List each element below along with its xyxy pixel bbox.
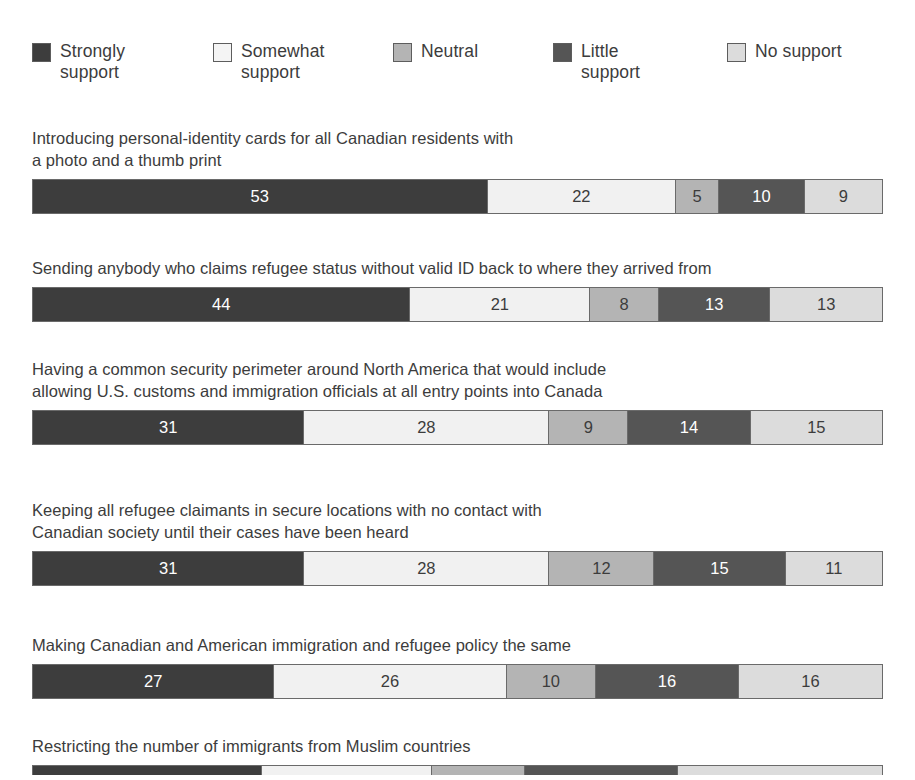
bar-segment-little: 13 <box>659 288 770 321</box>
bar-segment-somewhat: 20 <box>262 766 432 775</box>
bar-segment-neutral: 5 <box>676 180 719 213</box>
bar-segment-neutral: 9 <box>549 411 628 444</box>
bar-segment-little: 10 <box>719 180 805 213</box>
legend-item-neutral: Neutral <box>393 41 478 62</box>
bar-segment-somewhat: 22 <box>488 180 677 213</box>
question-text: Introducing personal-identity cards for … <box>32 127 883 171</box>
legend-item-label: Somewhat support <box>241 41 324 83</box>
question-block: Sending anybody who claims refugee statu… <box>32 257 883 322</box>
bar-segment-somewhat: 28 <box>304 552 549 585</box>
legend-item-label: Neutral <box>421 41 478 62</box>
stacked-bar: 2726101616 <box>32 664 883 699</box>
legend-item-strongly: Strongly support <box>32 41 125 83</box>
bar-segment-strongly: 31 <box>33 411 304 444</box>
bar-segment-strongly: 53 <box>33 180 488 213</box>
question-text: Keeping all refugee claimants in secure … <box>32 499 883 543</box>
bar-segment-strongly: 31 <box>33 552 304 585</box>
bar-segment-nosupport: 11 <box>786 552 882 585</box>
question-block: Restricting the number of immigrants fro… <box>32 735 883 775</box>
stacked-bar: 53225109 <box>32 179 883 214</box>
question-text: Sending anybody who claims refugee statu… <box>32 257 883 279</box>
bar-segment-somewhat: 21 <box>410 288 590 321</box>
bar-segment-nosupport: 24 <box>678 766 882 775</box>
question-text: Making Canadian and American immigration… <box>32 634 883 656</box>
bar-segment-nosupport: 16 <box>739 665 882 698</box>
bar-segment-little: 16 <box>596 665 739 698</box>
stacked-bar: 3128121511 <box>32 551 883 586</box>
legend-swatch-icon <box>213 43 232 62</box>
bar-segment-little: 18 <box>525 766 678 775</box>
bar-segment-nosupport: 13 <box>770 288 881 321</box>
chart-legend: Strongly supportSomewhat supportNeutralL… <box>0 41 915 97</box>
question-block: Making Canadian and American immigration… <box>32 634 883 699</box>
question-block: Introducing personal-identity cards for … <box>32 127 883 214</box>
legend-swatch-icon <box>727 43 746 62</box>
legend-swatch-icon <box>32 43 51 62</box>
bar-segment-nosupport: 15 <box>751 411 882 444</box>
bar-segment-somewhat: 28 <box>304 411 549 444</box>
bar-segment-neutral: 12 <box>549 552 654 585</box>
bar-segment-neutral: 11 <box>432 766 525 775</box>
question-block: Keeping all refugee claimants in secure … <box>32 499 883 586</box>
legend-item-somewhat: Somewhat support <box>213 41 324 83</box>
bar-segment-little: 14 <box>628 411 751 444</box>
stacked-bar: 442181313 <box>32 287 883 322</box>
bar-segment-little: 15 <box>654 552 785 585</box>
bar-segment-strongly: 27 <box>33 665 274 698</box>
bar-segment-nosupport: 9 <box>805 180 882 213</box>
legend-item-label: Little support <box>581 41 640 83</box>
legend-item-nosupport: No support <box>727 41 842 62</box>
legend-item-label: Strongly support <box>60 41 125 83</box>
question-text: Having a common security perimeter aroun… <box>32 358 883 402</box>
bar-segment-strongly: 27 <box>33 766 262 775</box>
legend-item-little: Little support <box>553 41 640 83</box>
legend-item-label: No support <box>755 41 842 62</box>
question-text: Restricting the number of immigrants fro… <box>32 735 883 757</box>
bar-segment-somewhat: 26 <box>274 665 506 698</box>
question-block: Having a common security perimeter aroun… <box>32 358 883 445</box>
bar-segment-strongly: 44 <box>33 288 410 321</box>
legend-swatch-icon <box>553 43 572 62</box>
stacked-bar: 2720111824 <box>32 765 883 775</box>
bar-segment-neutral: 8 <box>590 288 659 321</box>
bar-segment-neutral: 10 <box>507 665 596 698</box>
stacked-bar: 312891415 <box>32 410 883 445</box>
legend-swatch-icon <box>393 43 412 62</box>
